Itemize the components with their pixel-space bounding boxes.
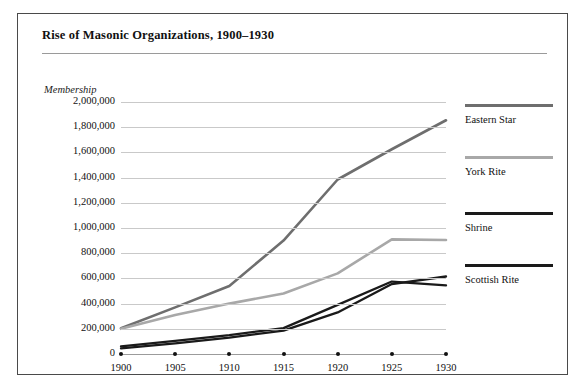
y-axis-tick: 1,800,000 [43, 120, 115, 131]
gridline [121, 127, 446, 128]
y-axis-tick: 2,000,000 [43, 95, 115, 106]
x-axis-tick: 1910 [199, 362, 259, 373]
x-axis-tick-labels: 1900190519101915192019251930 [121, 354, 446, 376]
y-axis-tick: 600,000 [43, 271, 115, 282]
gridline [121, 253, 446, 254]
y-axis-tick: 400,000 [43, 297, 115, 308]
chart-figure: Rise of Masonic Organizations, 1900–1930… [17, 13, 568, 375]
gridline [121, 203, 446, 204]
y-axis-tick-labels: 0200,000400,000600,000800,0001,000,0001,… [43, 102, 115, 354]
x-axis-tick: 1900 [91, 362, 151, 373]
title-divider [42, 53, 547, 54]
x-axis-tick: 1930 [416, 362, 476, 373]
y-axis-tick: 800,000 [43, 246, 115, 257]
legend-entry[interactable]: Shrine [465, 212, 557, 233]
plot-area [121, 102, 446, 354]
series-line [121, 277, 446, 349]
y-axis-tick: 1,200,000 [43, 196, 115, 207]
legend-swatch [465, 212, 553, 215]
gridline [121, 152, 446, 153]
x-axis-tick: 1915 [254, 362, 314, 373]
legend-label: York Rite [465, 166, 557, 177]
y-axis-tick: 1,000,000 [43, 221, 115, 232]
x-axis-tick: 1925 [362, 362, 422, 373]
legend-swatch [465, 104, 553, 107]
legend-swatch [465, 264, 553, 267]
legend-swatch [465, 156, 553, 159]
x-axis-tick: 1905 [145, 362, 205, 373]
gridline [121, 102, 446, 103]
gridline [121, 228, 446, 229]
gridline [121, 278, 446, 279]
y-axis-label: Membership [44, 84, 97, 95]
gridline [121, 304, 446, 305]
legend-label: Shrine [465, 222, 557, 233]
series-line [121, 282, 446, 347]
y-axis-tick: 0 [43, 347, 115, 358]
x-axis-tick: 1920 [308, 362, 368, 373]
chart-title: Rise of Masonic Organizations, 1900–1930 [42, 28, 274, 43]
gridline [121, 178, 446, 179]
legend-entry[interactable]: Scottish Rite [465, 264, 557, 285]
legend-entry[interactable]: York Rite [465, 156, 557, 177]
legend-label: Eastern Star [465, 114, 557, 125]
gridline [121, 329, 446, 330]
y-axis-tick: 1,600,000 [43, 145, 115, 156]
legend-entry[interactable]: Eastern Star [465, 104, 557, 125]
legend-label: Scottish Rite [465, 274, 557, 285]
y-axis-tick: 1,400,000 [43, 171, 115, 182]
y-axis-tick: 200,000 [43, 322, 115, 333]
